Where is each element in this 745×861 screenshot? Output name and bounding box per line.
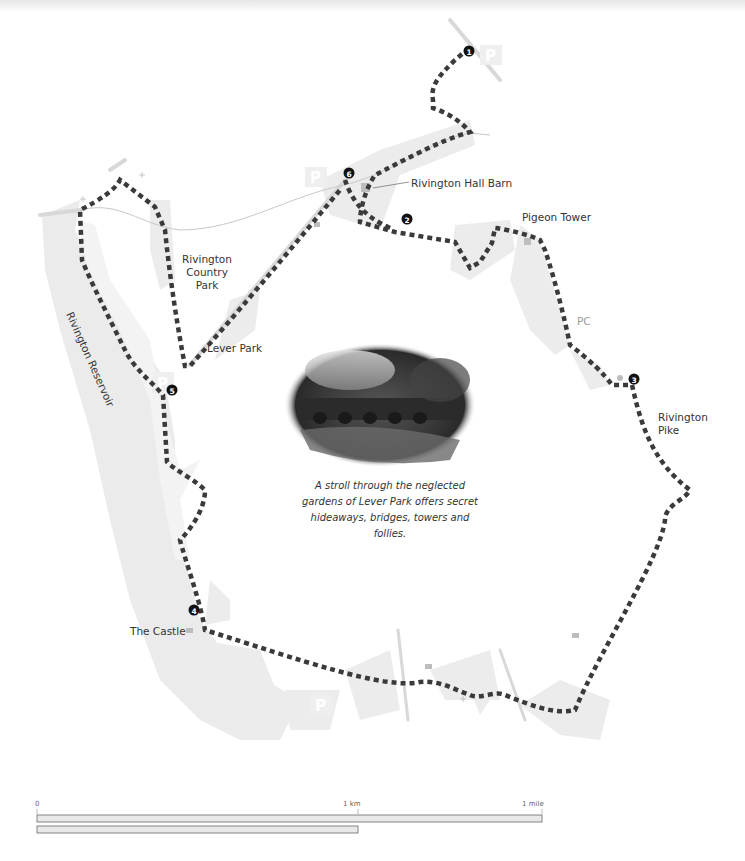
svg-text:1: 1 — [466, 48, 471, 57]
label-pc: PC — [577, 315, 591, 327]
label-country-park-1: Rivington — [182, 253, 232, 265]
svg-text:P: P — [315, 697, 326, 715]
svg-text:0: 0 — [35, 800, 39, 808]
walk-map[interactable]: P P P P 1 2 3 4 5 6 Rivington Hall Barn … — [0, 0, 745, 861]
label-rivington-hall-barn: Rivington Hall Barn — [411, 177, 512, 189]
label-the-castle: The Castle — [129, 625, 186, 637]
svg-text:4: 4 — [191, 607, 196, 616]
svg-text:6: 6 — [346, 170, 351, 179]
photo-bridge — [284, 343, 476, 467]
label-lever-park: Lever Park — [207, 342, 263, 354]
label-country-park-3: Park — [196, 279, 220, 291]
svg-text:5: 5 — [169, 387, 174, 396]
waypoint-2: 2 — [402, 214, 413, 225]
label-pigeon-tower: Pigeon Tower — [522, 211, 592, 223]
waypoint-6: 6 — [344, 168, 355, 179]
waypoint-1: 1 — [464, 46, 475, 57]
svg-text:1 km: 1 km — [343, 800, 361, 808]
scale-bar: 0 1 km 1 mile — [35, 800, 544, 833]
waypoint-5: 5 — [167, 385, 178, 396]
label-pike-2: Pike — [658, 424, 679, 436]
photo-caption: A stroll through the neglected gardens o… — [300, 478, 480, 542]
waypoint-3: 3 — [629, 374, 640, 385]
svg-text:P: P — [310, 169, 321, 187]
svg-text:1 mile: 1 mile — [522, 800, 544, 808]
label-pike-1: Rivington — [658, 411, 708, 423]
waypoint-4: 4 — [189, 605, 200, 616]
svg-text:P: P — [485, 47, 496, 65]
svg-text:2: 2 — [404, 216, 409, 225]
label-country-park-2: Country — [186, 266, 228, 278]
svg-text:3: 3 — [631, 376, 636, 385]
